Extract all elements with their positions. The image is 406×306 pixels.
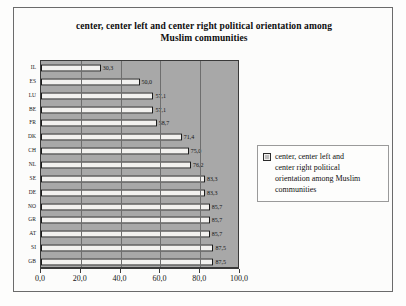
bar-value-label: 87,5 xyxy=(215,259,226,265)
bar-row: 87,5 xyxy=(41,255,238,268)
y-axis-label-il: IL xyxy=(16,60,38,74)
bar xyxy=(41,106,153,113)
y-axis-label-ch: CH xyxy=(16,143,38,157)
y-axis-label-de: DE xyxy=(16,185,38,199)
x-axis-tick xyxy=(40,269,41,273)
gridline-x xyxy=(81,61,82,267)
bar-row: 85,7 xyxy=(41,227,238,241)
chart-legend: center, center left and center right pol… xyxy=(257,145,389,202)
bar-row: 83,3 xyxy=(41,172,238,186)
y-axis-category-labels: ILESLUBEFRDKCHNLSEDENOGRATSIGB xyxy=(16,60,38,268)
bar xyxy=(41,175,205,182)
x-axis-tick-label: 60,0 xyxy=(152,274,166,283)
bar-rows: 30,350,057,157,158,771,475,076,283,383,3… xyxy=(41,61,238,267)
bar-value-label: 85,7 xyxy=(212,217,223,223)
plot-area-wrapper: ILESLUBEFRDKCHNLSEDENOGRATSIGB 30,350,05… xyxy=(40,60,239,268)
bar-value-label: 30,3 xyxy=(103,65,114,71)
legend-label-line-4: communities xyxy=(275,184,360,195)
x-axis-tick-label: 0,0 xyxy=(35,274,45,283)
bar-row: 57,1 xyxy=(41,103,238,117)
x-axis-tick xyxy=(199,269,200,273)
x-axis-tick-label: 100,0 xyxy=(230,274,248,283)
chart-title: center, center left and center right pol… xyxy=(54,20,354,44)
bar-row: 87,5 xyxy=(41,241,238,255)
bar-value-label: 85,7 xyxy=(212,231,223,237)
y-axis-label-gb: GB xyxy=(16,254,38,268)
bar-value-label: 83,3 xyxy=(207,190,218,196)
legend-label-line-2: center right political xyxy=(275,162,360,173)
bar-row: 58,7 xyxy=(41,116,238,130)
bar xyxy=(41,161,191,168)
bar xyxy=(41,258,213,265)
y-axis-label-no: NO xyxy=(16,199,38,213)
bar xyxy=(41,148,189,155)
chart-title-line-2: Muslim communities xyxy=(54,32,354,44)
y-axis-label-be: BE xyxy=(16,102,38,116)
x-axis-tick xyxy=(159,269,160,273)
bar-row: 71,4 xyxy=(41,130,238,144)
x-axis-tick-label: 20,0 xyxy=(73,274,87,283)
gridline-x xyxy=(121,61,122,267)
bar-row: 57,1 xyxy=(41,89,238,103)
x-axis-tick xyxy=(120,269,121,273)
y-axis-label-fr: FR xyxy=(16,115,38,129)
bar-value-label: 76,2 xyxy=(193,162,204,168)
bar xyxy=(41,231,210,238)
bar xyxy=(41,120,157,127)
legend-swatch-icon xyxy=(263,153,271,161)
x-axis-tick-label: 40,0 xyxy=(113,274,127,283)
chart-title-line-1: center, center left and center right pol… xyxy=(54,20,354,32)
bar xyxy=(41,78,140,85)
y-axis-label-es: ES xyxy=(16,74,38,88)
bar-row: 85,7 xyxy=(41,200,238,214)
x-axis-tick-label: 80,0 xyxy=(192,274,206,283)
bar xyxy=(41,189,205,196)
bar xyxy=(41,203,210,210)
y-axis-label-at: AT xyxy=(16,226,38,240)
x-axis-tick-labels: 0,020,040,060,080,0100,0 xyxy=(14,274,274,288)
bar-value-label: 50,0 xyxy=(142,79,153,85)
y-axis-label-nl: NL xyxy=(16,157,38,171)
legend-label-line-1: center, center left and xyxy=(275,151,360,162)
plot-area: 30,350,057,157,158,771,475,076,283,383,3… xyxy=(40,60,239,268)
bar-value-label: 85,7 xyxy=(212,204,223,210)
y-axis-label-se: SE xyxy=(16,171,38,185)
chart-frame: center, center left and center right pol… xyxy=(13,7,393,292)
gridline-x xyxy=(160,61,161,267)
bar-value-label: 83,3 xyxy=(207,176,218,182)
bar xyxy=(41,92,153,99)
x-axis-tick xyxy=(80,269,81,273)
bar xyxy=(41,217,210,224)
bar-value-label: 87,5 xyxy=(215,245,226,251)
bar-value-label: 71,4 xyxy=(184,134,195,140)
y-axis-label-dk: DK xyxy=(16,129,38,143)
y-axis-label-gr: GR xyxy=(16,212,38,226)
y-axis-label-si: SI xyxy=(16,240,38,254)
bar-row: 85,7 xyxy=(41,213,238,227)
bar-row: 75,0 xyxy=(41,144,238,158)
x-axis-tick xyxy=(239,269,240,273)
bar-row: 83,3 xyxy=(41,186,238,200)
bar-row: 30,3 xyxy=(41,61,238,75)
gridline-x xyxy=(200,61,201,267)
bar xyxy=(41,245,213,252)
bar-row: 50,0 xyxy=(41,75,238,89)
legend-label: center, center left and center right pol… xyxy=(275,151,360,195)
bar-row: 76,2 xyxy=(41,158,238,172)
y-axis-label-lu: LU xyxy=(16,88,38,102)
bar xyxy=(41,64,101,71)
legend-label-line-3: orientation among Muslim xyxy=(275,173,360,184)
